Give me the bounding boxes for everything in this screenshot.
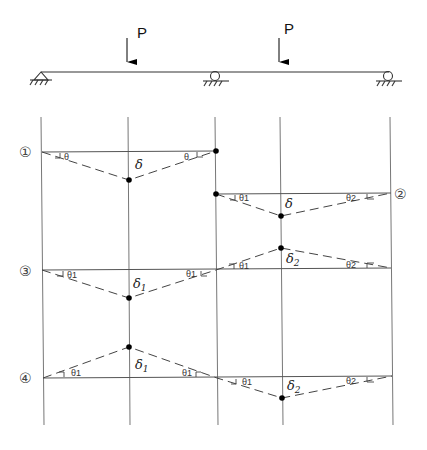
case-3: ③ θ1 θ1 δ1 θ1 θ2 δ2 [19,245,391,301]
deflection-point [279,395,285,401]
support-point [213,191,219,197]
angle-label: θ2 [346,376,356,386]
angle-label: θ1 [182,368,192,378]
angle-label: θ2 [346,193,356,203]
case-number: ① [19,144,32,160]
angle-label: θ [184,152,189,162]
roller-support-icon [376,72,402,87]
deflection-label: δ [135,157,143,172]
reference-line [215,117,218,425]
reference-line [128,117,130,425]
angle-label: θ1 [239,261,249,271]
angle-mark [59,372,64,377]
load-label: P [284,20,294,37]
case-2: ② θ1 θ2 δ [213,186,406,219]
deflection-point [278,245,284,251]
angle-label: θ1 [186,269,196,279]
support-point [213,148,219,154]
angle-label: θ1 [67,270,77,280]
case-1: ① θ θ δ [19,144,219,183]
angle-label: θ1 [71,368,81,378]
case-number: ④ [19,370,32,386]
case-4: ④ θ1 θ1 δ1 θ1 θ2 δ2 [19,344,392,401]
deflection-label: δ1 [133,276,147,293]
angle-label: θ [64,152,69,162]
case-number: ② [394,186,407,202]
reference-line [390,117,393,425]
roller-support-icon [203,72,229,87]
angle-label: θ2 [346,260,356,270]
load-label: P [137,24,147,41]
pin-support-icon [30,72,52,85]
case-number: ③ [19,263,32,279]
beam-schematic: P P [30,20,402,86]
deflection-label: δ1 [135,357,149,374]
deflection-point [126,177,132,183]
deflection-point [278,213,284,219]
reference-lines [41,117,393,425]
deflection-label: δ2 [287,378,301,395]
deflection-point [126,295,132,301]
angle-label: θ1 [242,377,252,387]
angle-mark [197,152,203,157]
beam-deflection-diagram: P P ① θ θ δ ② θ1 θ2 δ [0,0,427,450]
reference-line [280,117,283,425]
deflection-label: δ [285,196,293,211]
angle-label: θ1 [239,193,249,203]
deflection-label: δ2 [286,251,300,268]
angle-mark [196,372,201,377]
deflection-point [126,344,132,350]
